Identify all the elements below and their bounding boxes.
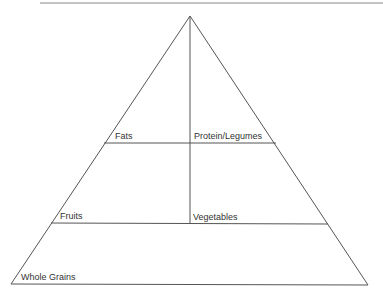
label-fruits: Fruits xyxy=(60,211,83,221)
label-vegetables: Vegetables xyxy=(193,212,238,222)
label-fats: Fats xyxy=(115,131,133,141)
tier-divider-lower xyxy=(51,223,328,224)
label-whole-grains: Whole Grains xyxy=(21,272,76,282)
pyramid-diagram xyxy=(0,0,383,300)
label-protein: Protein/Legumes xyxy=(194,131,262,141)
